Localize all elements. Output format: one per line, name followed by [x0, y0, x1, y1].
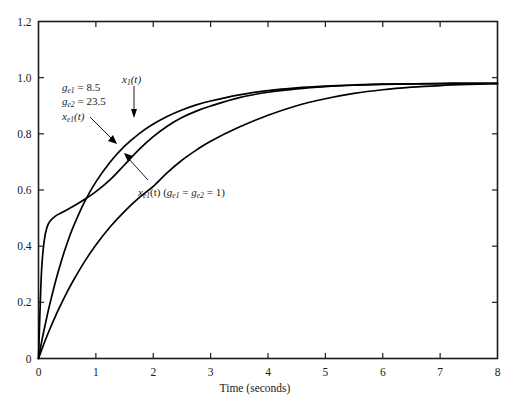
unity-sub: e1 [143, 191, 150, 200]
x-tick-label: 1 [93, 366, 99, 378]
x-tick-label: 3 [208, 366, 214, 378]
x-tick-label: 7 [437, 366, 443, 378]
chart-background [0, 0, 511, 411]
x-tick-label: 8 [495, 366, 501, 378]
gain-2-rest: = 23.5 [75, 95, 106, 107]
x-tick-label: 0 [36, 366, 42, 378]
x-tick-label: 5 [323, 366, 329, 378]
unity-g1-sub: e1 [172, 191, 179, 200]
x-tick-label: 4 [265, 366, 271, 378]
unity-end: = 1) [204, 186, 225, 199]
unity-mid: (t) ( [150, 186, 167, 199]
step-response-chart: 00.20.40.60.81.01.2 012345678 ge1 = 8.5 … [0, 0, 511, 411]
y-tick-label: 0.2 [17, 296, 32, 308]
x-tick-label: 2 [150, 366, 156, 378]
xe1-sub: e1 [67, 115, 74, 124]
y-tick-label: 1.2 [17, 16, 32, 28]
y-tick-label: 1.0 [17, 72, 32, 84]
x1-rest: (t) [131, 73, 142, 86]
y-tick-label: 0.4 [17, 240, 32, 252]
gain-1-rest: = 8.5 [75, 81, 101, 93]
x-axis-title: Time (seconds) [220, 382, 291, 395]
x-tick-label: 6 [380, 366, 386, 378]
gain-1-sub: e1 [68, 86, 75, 95]
unity-eq: = [180, 186, 192, 198]
y-tick-label: 0 [26, 353, 32, 365]
y-tick-label: 0.6 [17, 184, 32, 196]
chart-figure: 00.20.40.60.81.01.2 012345678 ge1 = 8.5 … [0, 0, 511, 411]
y-tick-label: 0.8 [17, 128, 32, 140]
xe1-rest: (t) [74, 110, 85, 123]
